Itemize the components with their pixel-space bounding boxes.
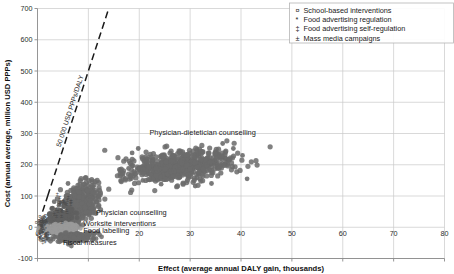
scatter-chart: 01020304050607080 -100010020030040050060… bbox=[0, 0, 454, 274]
data-point bbox=[162, 166, 167, 171]
data-point bbox=[146, 164, 151, 169]
y-tick-label: 600 bbox=[21, 35, 33, 44]
data-point bbox=[77, 194, 82, 199]
data-point bbox=[88, 198, 93, 203]
data-point bbox=[59, 225, 64, 230]
data-point-outlier bbox=[240, 153, 245, 158]
annotation-label: Physician counselling bbox=[96, 208, 167, 217]
data-point bbox=[144, 159, 149, 164]
data-point bbox=[185, 162, 190, 167]
data-point bbox=[102, 196, 107, 201]
data-point bbox=[106, 187, 111, 192]
x-tick-label: 30 bbox=[186, 229, 194, 238]
data-point bbox=[78, 176, 83, 181]
data-point bbox=[214, 157, 219, 162]
annotation-label: Physician-dietetician counselling bbox=[149, 128, 255, 137]
data-point bbox=[80, 185, 85, 190]
data-point bbox=[204, 162, 209, 167]
data-point bbox=[78, 226, 83, 231]
data-point-outlier bbox=[220, 141, 225, 146]
data-point bbox=[143, 149, 148, 154]
annotation-label: Fiscal measures bbox=[63, 238, 117, 247]
data-point bbox=[82, 205, 87, 210]
data-point bbox=[249, 159, 254, 164]
x-tick-label: 50 bbox=[288, 229, 296, 238]
data-point bbox=[235, 151, 240, 156]
data-point bbox=[95, 178, 100, 183]
data-point bbox=[98, 192, 103, 197]
x-tick-label: 80 bbox=[441, 229, 449, 238]
data-point bbox=[190, 149, 195, 154]
data-point bbox=[132, 181, 137, 186]
legend-label: School-based interventions bbox=[304, 6, 392, 15]
data-point-glyph: ± bbox=[55, 213, 58, 219]
data-point bbox=[172, 169, 177, 174]
data-point bbox=[140, 156, 145, 161]
data-point bbox=[222, 163, 227, 168]
data-point-outlier bbox=[129, 173, 134, 178]
data-point-outlier bbox=[88, 185, 93, 190]
legend-symbol: ‡ bbox=[296, 24, 300, 33]
data-point bbox=[117, 167, 122, 172]
legend: ¤School-based interventions*Food adverti… bbox=[290, 3, 454, 43]
legend-label: Mass media campaigns bbox=[304, 34, 381, 43]
data-point bbox=[141, 167, 146, 172]
data-point bbox=[224, 138, 229, 143]
legend-symbol: ¤ bbox=[296, 6, 300, 15]
data-point bbox=[71, 185, 76, 190]
data-point bbox=[184, 152, 189, 157]
data-point bbox=[75, 203, 80, 208]
data-point bbox=[130, 163, 135, 168]
data-point-outlier bbox=[231, 146, 236, 151]
data-point bbox=[185, 172, 190, 177]
data-point-outlier bbox=[126, 166, 131, 171]
data-point bbox=[151, 151, 156, 156]
data-point bbox=[115, 155, 120, 160]
data-point bbox=[83, 175, 88, 180]
data-point-outlier bbox=[136, 146, 141, 151]
data-point-outlier bbox=[193, 184, 198, 189]
data-point bbox=[201, 166, 206, 171]
data-point bbox=[255, 163, 260, 168]
data-point bbox=[164, 144, 169, 149]
legend-label: Food advertising self-regulation bbox=[304, 24, 406, 33]
x-tick-label: 70 bbox=[390, 229, 398, 238]
data-point bbox=[253, 158, 258, 163]
data-point bbox=[181, 182, 186, 187]
data-point bbox=[170, 159, 175, 164]
y-tick-label: 700 bbox=[21, 4, 33, 13]
data-point-glyph: ± bbox=[62, 199, 65, 205]
data-point-glyph: ± bbox=[56, 191, 59, 197]
x-tick-label: 20 bbox=[135, 229, 143, 238]
data-point bbox=[131, 158, 136, 163]
data-point bbox=[191, 154, 196, 159]
data-point bbox=[200, 149, 205, 154]
data-point bbox=[227, 157, 232, 162]
data-point-glyph: ¤ bbox=[44, 212, 47, 218]
data-point bbox=[237, 168, 242, 173]
data-point-outlier bbox=[130, 150, 135, 155]
plot-svg: 01020304050607080 -100010020030040050060… bbox=[0, 0, 454, 274]
data-point-outlier bbox=[140, 178, 145, 183]
data-point bbox=[200, 178, 205, 183]
data-point bbox=[198, 157, 203, 162]
data-point bbox=[63, 231, 68, 236]
data-point bbox=[174, 184, 179, 189]
y-tick-label: 300 bbox=[21, 129, 33, 138]
data-point-glyph: ‡ bbox=[42, 236, 45, 242]
legend-symbol: ± bbox=[296, 34, 300, 43]
data-point bbox=[75, 215, 80, 220]
data-point bbox=[55, 239, 60, 244]
data-point bbox=[232, 141, 237, 146]
data-point-glyph: ± bbox=[58, 201, 61, 207]
data-point-outlier bbox=[159, 182, 164, 187]
data-point bbox=[174, 155, 179, 160]
y-tick-label: 400 bbox=[21, 98, 33, 107]
data-point bbox=[90, 179, 95, 184]
data-point bbox=[179, 160, 184, 165]
data-point bbox=[245, 164, 250, 169]
x-tick-label: 40 bbox=[237, 229, 245, 238]
data-point bbox=[192, 178, 197, 183]
y-tick-label: 500 bbox=[21, 67, 33, 76]
data-point bbox=[219, 153, 224, 158]
